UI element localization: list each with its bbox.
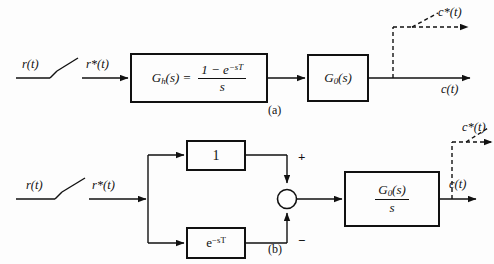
plant-integrator-fraction: G0(s) s: [375, 183, 409, 215]
label-cstar-b: c*(t): [462, 121, 486, 134]
plant-block-formula-a: G0(s): [308, 55, 368, 101]
summing-junction-circle-b: [278, 190, 297, 209]
label-ct-a: c(t): [441, 83, 458, 96]
caption-b: (b): [268, 243, 282, 255]
label-rt-a: r(t): [22, 58, 39, 71]
label-rstar-a: r*(t): [86, 58, 109, 71]
unity-block-label-b: 1: [187, 141, 245, 170]
summing-sign-minus-b: −: [298, 234, 305, 247]
plant-label-a: G0(s): [324, 70, 352, 86]
zoh-denominator: s: [217, 79, 228, 94]
signal-line-delay-to-sum-b: [245, 213, 287, 243]
label-cstar-a: c*(t): [438, 6, 462, 19]
plant-integrator-denominator: s: [386, 200, 397, 215]
delay-block-label-b: e−sT: [187, 228, 245, 258]
zoh-lhs: Gh(s) =: [152, 70, 192, 86]
sampler-switch-a: [50, 58, 78, 78]
summing-sign-plus-b: +: [298, 150, 305, 163]
label-ct-b: c(t): [449, 178, 466, 191]
zoh-numerator: 1 − e−sT: [198, 63, 246, 79]
plant-integrator-formula-b: G0(s) s: [345, 172, 439, 226]
block-diagram-figure: r(t) r*(t) Gh(s) = 1 − e−sT s G0(s) c(t)…: [0, 0, 494, 264]
zoh-fraction: 1 − e−sT s: [198, 63, 246, 93]
caption-a: (a): [268, 104, 281, 116]
signal-line-unity-to-sum-b: [245, 155, 287, 183]
sampler-switch-b: [55, 178, 85, 199]
output-sampler-branch-a: [393, 13, 468, 78]
label-rt-b: r(t): [26, 179, 43, 192]
label-rstar-b: r*(t): [92, 179, 115, 192]
plant-integrator-numerator: G0(s): [375, 183, 409, 200]
zoh-block-formula-a: Gh(s) = 1 − e−sT s: [131, 54, 267, 102]
